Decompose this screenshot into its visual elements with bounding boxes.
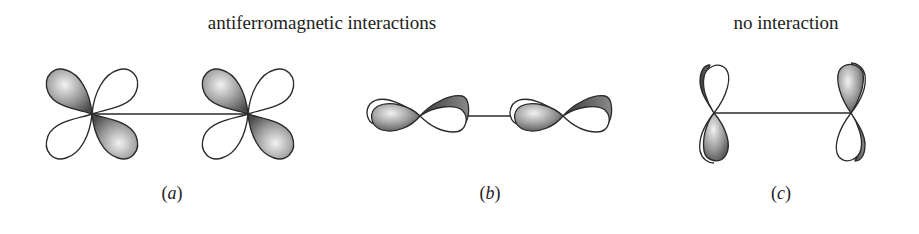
- panel-label-a: (a): [162, 183, 183, 204]
- p-orbital-left: [367, 96, 469, 132]
- panel-a: [46, 69, 293, 159]
- panel-b: [367, 96, 612, 132]
- p-orbital-left: [700, 65, 729, 163]
- panel-label-b-text: b: [486, 183, 495, 203]
- panel-c: [700, 63, 866, 163]
- p-orbital-right: [836, 63, 865, 161]
- panel-label-c: (c): [771, 183, 791, 204]
- p-orbital-right: [510, 96, 612, 132]
- panel-label-a-text: a: [168, 183, 177, 203]
- panel-label-c-text: c: [777, 183, 785, 203]
- panel-label-b: (b): [480, 183, 501, 204]
